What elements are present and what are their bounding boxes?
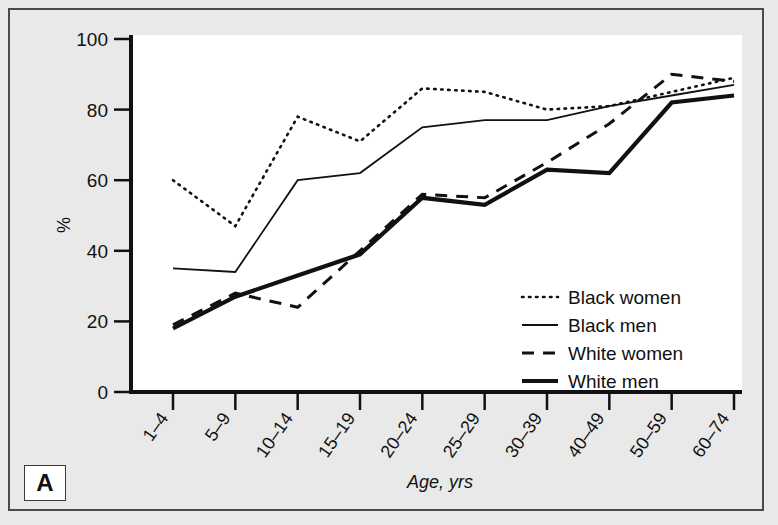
legend-label: Black women — [568, 287, 681, 308]
legend-label: Black men — [568, 315, 657, 336]
y-tick-label: 100 — [76, 29, 108, 50]
y-tick-label: 0 — [97, 382, 108, 403]
y-tick-label: 80 — [87, 100, 108, 121]
y-tick-label: 20 — [87, 311, 108, 332]
y-axis-ticks: 020406080100 — [76, 29, 131, 403]
y-tick-label: 60 — [87, 170, 108, 191]
x-tick-label: 50–59 — [626, 409, 671, 461]
x-tick-label: 25–29 — [439, 409, 484, 461]
x-tick-label: 10–14 — [252, 409, 297, 461]
x-axis-ticks: 1–45–910–1415–1920–2425–2930–3940–4950–5… — [139, 392, 734, 461]
x-tick-label: 60–74 — [688, 409, 733, 461]
chart-canvas: 020406080100 1–45–910–1415–1920–2425–293… — [10, 10, 762, 509]
x-tick-label: 5–9 — [201, 409, 235, 445]
x-tick-label: 40–49 — [564, 409, 609, 461]
y-tick-label: 40 — [87, 241, 108, 262]
legend-label: White men — [568, 371, 659, 392]
legend-label: White women — [568, 343, 683, 364]
x-tick-label: 15–19 — [314, 409, 359, 461]
x-tick-label: 30–39 — [501, 409, 546, 461]
panel-label: A — [24, 465, 66, 501]
x-tick-label: 1–4 — [139, 409, 173, 445]
y-axis-title: % — [54, 217, 74, 233]
figure-panel: 020406080100 1–45–910–1415–1920–2425–293… — [8, 8, 764, 511]
x-axis-title: Age, yrs — [406, 472, 473, 492]
x-tick-label: 20–24 — [377, 409, 422, 461]
